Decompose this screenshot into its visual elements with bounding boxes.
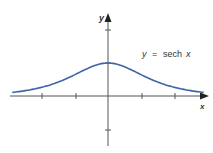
y-axis-arrow-icon (105, 13, 112, 22)
x-axis-arrow-icon (200, 93, 209, 100)
sech-plot: y x y = sech x (0, 0, 213, 153)
svg-text:sech: sech (163, 49, 182, 59)
x-axis-label: x (199, 102, 205, 111)
svg-text:x: x (185, 49, 191, 59)
svg-text:y: y (141, 49, 147, 59)
svg-text:=: = (152, 49, 157, 59)
equation-label: y = sech x (141, 49, 191, 59)
y-axis-label: y (98, 13, 105, 23)
